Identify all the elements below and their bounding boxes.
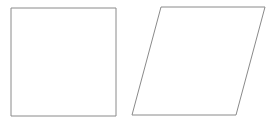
square-shape bbox=[11, 8, 116, 116]
diagram-canvas bbox=[0, 0, 274, 121]
parallelogram-shape bbox=[132, 7, 265, 115]
